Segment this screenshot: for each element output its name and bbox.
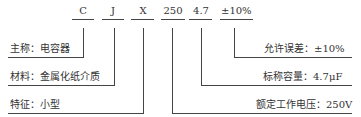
leader-line bbox=[234, 28, 235, 58]
leader-line bbox=[143, 28, 144, 114]
leader-line bbox=[8, 113, 144, 114]
leader-line bbox=[201, 28, 202, 86]
code-c: C bbox=[71, 4, 95, 18]
underline bbox=[161, 19, 185, 20]
underline bbox=[189, 19, 212, 20]
underline bbox=[220, 19, 253, 20]
leader-line bbox=[234, 57, 352, 58]
leader-line bbox=[172, 28, 173, 114]
underline bbox=[72, 19, 94, 20]
code-tolerance: ±10% bbox=[221, 4, 251, 18]
label-tolerance: 允许误差：±10% bbox=[264, 43, 345, 55]
underline bbox=[102, 19, 124, 20]
label-rated-voltage: 额定工作电压：250V bbox=[256, 99, 352, 111]
code-4-7: 4.7 bbox=[189, 4, 213, 18]
capacitor-model-diagram: C J X 250 4.7 ±10% 主称：电容器 材料：金属化纸介质 特征：小… bbox=[0, 0, 361, 117]
label-feature: 特征：小型 bbox=[10, 99, 60, 111]
code-j: J bbox=[101, 4, 125, 18]
label-main-name: 主称：电容器 bbox=[10, 43, 70, 55]
leader-line bbox=[114, 28, 115, 86]
code-x: X bbox=[131, 4, 155, 18]
label-material: 材料：金属化纸介质 bbox=[10, 71, 100, 83]
leader-line bbox=[201, 85, 352, 86]
leader-line bbox=[8, 85, 115, 86]
label-capacitance: 标称容量：4.7μF bbox=[263, 71, 342, 83]
underline bbox=[131, 19, 154, 20]
leader-line bbox=[83, 28, 84, 58]
leader-line bbox=[8, 57, 84, 58]
code-250: 250 bbox=[161, 4, 185, 18]
leader-line bbox=[172, 113, 352, 114]
